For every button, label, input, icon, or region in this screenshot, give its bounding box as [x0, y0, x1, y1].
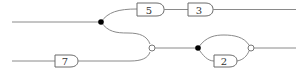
wire-2-to-merge	[237, 51, 249, 61]
split-top-node	[98, 19, 104, 25]
gate-3: 3	[188, 3, 213, 16]
circuit-diagram: 5 3 7 2	[0, 0, 305, 77]
wire-upper-arc	[198, 35, 249, 48]
wire-7-to-merge	[78, 52, 150, 61]
wire-top-to-merge	[101, 22, 150, 44]
wire-to-gate-5	[101, 9, 137, 22]
gate-2-label: 2	[221, 56, 227, 67]
merge-mid-node	[149, 45, 155, 51]
split-right-node	[195, 45, 201, 51]
gate-7: 7	[55, 55, 78, 67]
gate-5: 5	[137, 3, 164, 16]
gate-2: 2	[214, 55, 237, 67]
gate-5-label: 5	[146, 5, 152, 16]
wire-to-gate-2	[198, 48, 214, 61]
gate-7-label: 7	[62, 56, 68, 67]
gate-3-label: 3	[196, 5, 202, 16]
merge-right-node	[248, 45, 254, 51]
